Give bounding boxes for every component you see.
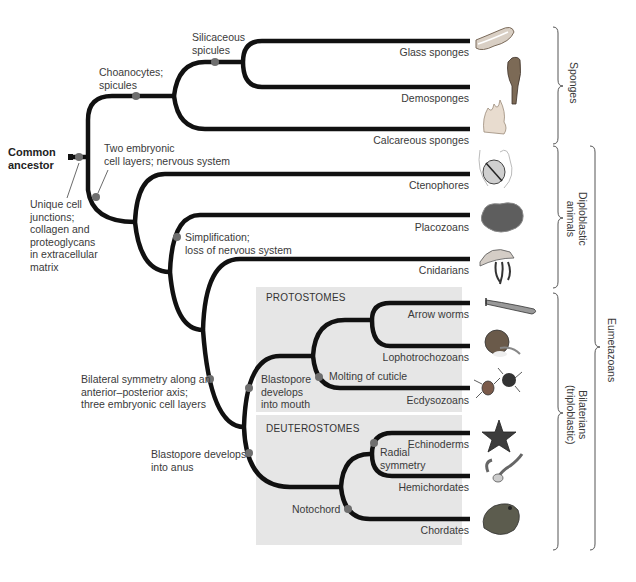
- jellyfish-illustration: [480, 250, 514, 284]
- bracket-sponges: [553, 27, 563, 144]
- branch-after-placo: [170, 272, 203, 330]
- glass-sponge-illustration: [476, 27, 514, 49]
- taxon-placozoans: Placozoans: [415, 221, 469, 234]
- branch-after-cteno: [135, 222, 170, 272]
- bracket-bilaterians: [553, 293, 563, 550]
- ctenophore-illustration: [479, 150, 512, 188]
- taxon-demosponges: Demosponges: [401, 92, 469, 105]
- node-dot-silicaceous: [211, 58, 219, 66]
- taxon-hemichordates: Hemichordates: [398, 481, 469, 494]
- character-choanocytes: Choanocytes; spicules: [99, 66, 163, 91]
- character-two-layers: Two embryonic cell layers; nervous syste…: [104, 142, 230, 167]
- node-dot-simplification: [173, 233, 181, 241]
- node-dot-blastopore-anus: [245, 449, 253, 457]
- branch-ambulacraria: [341, 454, 372, 487]
- bracket-label-bilaterians: Bilaterians (triploblastic): [565, 385, 589, 445]
- taxon-cnidarians: Cnidarians: [419, 264, 469, 277]
- character-blastopore-anus: Blastopore develops into anus: [151, 448, 246, 473]
- bracket-eumetazoans: [590, 146, 600, 550]
- node-dot-blastopore-mouth: [245, 384, 253, 392]
- bracket-label-diploblastic: Diploblastic animals: [565, 192, 589, 246]
- branch-demosponges: [243, 62, 470, 87]
- branch-lophotrochozoans: [372, 320, 470, 346]
- taxon-echinoderms: Echinoderms: [408, 438, 469, 451]
- taxon-calcareous-sponges: Calcareous sponges: [373, 134, 469, 147]
- character-silicaceous: Silicaceous spicules: [192, 31, 245, 56]
- character-molting: Molting of cuticle: [329, 370, 407, 383]
- character-bilateral: Bilateral symmetry along an anterior–pos…: [81, 373, 211, 411]
- arrow-worm-illustration: [486, 298, 536, 314]
- taxon-ctenophores: Ctenophores: [409, 179, 469, 192]
- taxon-lophotrochozoans: Lophotrochozoans: [383, 351, 469, 364]
- taxon-glass-sponges: Glass sponges: [400, 46, 469, 59]
- acorn-worm-illustration: [487, 454, 522, 482]
- node-dot-notochord: [344, 505, 352, 513]
- tree-branches: [0, 0, 636, 582]
- node-dot-radial: [370, 439, 378, 447]
- placozoan-illustration: [481, 203, 523, 232]
- mite-illustration: [474, 368, 522, 398]
- node-dot-root: [75, 153, 83, 161]
- phylogeny-figure: Common ancestor Unique cell junctions; c…: [0, 0, 636, 582]
- character-blastopore-mouth: Blastopore develops into mouth: [261, 373, 311, 411]
- node-dot-molting: [315, 373, 323, 381]
- taxon-arrow-worms: Arrow worms: [408, 308, 469, 321]
- frog-illustration: [483, 504, 519, 535]
- root-label: Common ancestor: [8, 146, 56, 171]
- deuterostomes-title: DEUTEROSTOMES: [266, 423, 360, 436]
- sea-star-illustration: [482, 420, 516, 452]
- taxon-ecdysozoans: Ecdysozoans: [407, 394, 469, 407]
- nautilus-illustration: [485, 330, 520, 357]
- bracket-label-sponges: Sponges: [568, 62, 580, 103]
- character-notochord: Notochord: [292, 503, 340, 516]
- node-dot-choanocytes: [132, 92, 140, 100]
- protostomes-title: PROTOSTOMES: [266, 292, 346, 305]
- branch-lopho-arrow: [313, 320, 372, 356]
- bracket-label-eumetazoans: Eumetazoans: [606, 318, 618, 382]
- taxon-chordates: Chordates: [421, 524, 469, 537]
- branch-deuterostomes: [244, 427, 341, 487]
- organism-illustrations: [474, 27, 536, 534]
- demosponge-illustration: [508, 57, 521, 104]
- root-trait-label: Unique cell junctions; collagen and prot…: [30, 198, 98, 273]
- bracket-diploblastic: [553, 146, 563, 288]
- character-simplification: Simplification; loss of nervous system: [185, 231, 292, 256]
- calcareous-sponge-illustration: [484, 100, 507, 134]
- branch-glass-demo: [174, 62, 243, 96]
